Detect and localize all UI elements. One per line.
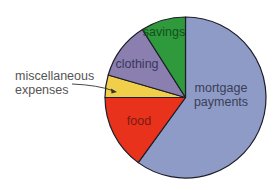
label-mortgage-line1: mortgage xyxy=(195,81,248,95)
label-mortgage-line2: payments xyxy=(194,95,248,109)
label-misc-line2: expenses xyxy=(15,83,69,97)
pie-chart: mortgage payments food clothing savings … xyxy=(0,0,277,190)
label-misc-line1: miscellaneous xyxy=(15,69,94,83)
label-clothing: clothing xyxy=(115,57,158,71)
label-savings: savings xyxy=(143,25,185,39)
label-food: food xyxy=(127,114,151,128)
